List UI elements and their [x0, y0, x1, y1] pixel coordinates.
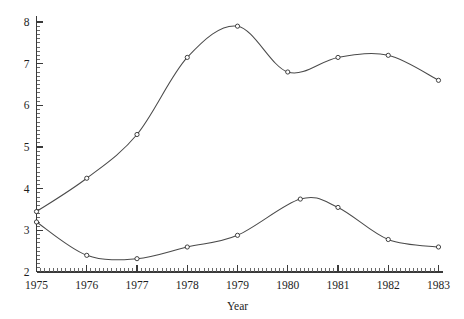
series-layer — [34, 24, 440, 261]
data-point-marker — [34, 220, 38, 224]
data-point-marker — [235, 24, 239, 28]
series-lower-series — [34, 197, 440, 261]
data-point-marker — [235, 233, 239, 237]
data-point-marker — [298, 197, 302, 201]
x-tick-label: 1981 — [327, 279, 350, 291]
y-tick-label: 3 — [24, 224, 30, 236]
x-tick-label: 1979 — [226, 279, 249, 291]
x-tick-label: 1978 — [176, 279, 199, 291]
x-tick-label: 1982 — [377, 279, 400, 291]
data-point-marker — [336, 55, 340, 59]
y-tick-label: 2 — [24, 266, 30, 278]
chart-container: 2345678 19751976197719781979198019811982… — [0, 0, 464, 319]
data-point-marker — [85, 253, 89, 257]
x-tick-label: 1977 — [126, 279, 149, 291]
y-axis: 2345678 — [24, 16, 43, 278]
data-point-marker — [135, 257, 139, 261]
data-point-marker — [286, 70, 290, 74]
data-point-marker — [185, 55, 189, 59]
data-point-marker — [386, 237, 390, 241]
data-point-marker — [185, 245, 189, 249]
y-tick-label: 6 — [24, 99, 30, 111]
y-tick-label: 4 — [24, 183, 30, 195]
data-point-marker — [386, 53, 390, 57]
line-chart: 2345678 19751976197719781979198019811982… — [0, 0, 464, 319]
data-point-marker — [436, 245, 440, 249]
y-tick-label: 7 — [24, 58, 30, 70]
data-point-marker — [85, 176, 89, 180]
x-tick-label: 1975 — [25, 279, 48, 291]
x-tick-label: 1983 — [427, 279, 450, 291]
y-tick-label: 5 — [24, 141, 30, 153]
series-line — [37, 197, 439, 259]
data-point-marker — [135, 132, 139, 136]
data-point-marker — [436, 78, 440, 82]
x-tick-label: 1980 — [276, 279, 299, 291]
x-axis: 197519761977197819791980198119821983 — [25, 265, 450, 291]
y-tick-label: 8 — [24, 16, 30, 28]
series-upper-series — [34, 24, 440, 214]
data-point-marker — [336, 205, 340, 209]
x-axis-title: Year — [227, 300, 248, 312]
series-line — [37, 26, 439, 212]
x-tick-label: 1976 — [75, 279, 98, 291]
data-point-marker — [34, 209, 38, 213]
